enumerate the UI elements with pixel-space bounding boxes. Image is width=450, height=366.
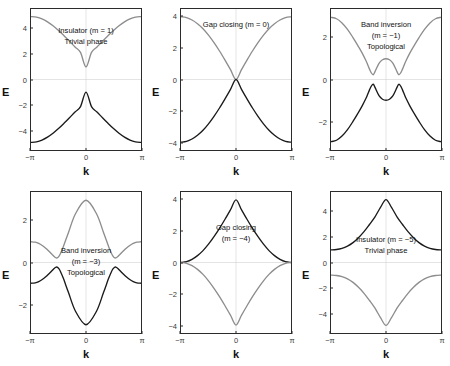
y-tick-label: −2 — [168, 290, 177, 299]
x-tick-mark — [236, 331, 237, 334]
axis-frame — [180, 191, 292, 334]
y-tick-label: 4 — [173, 194, 177, 203]
x-tick-label: π — [439, 336, 444, 345]
plot-area: 420−2−4−π0πGap closing (m = 0) — [180, 8, 292, 151]
y-tick-mark — [30, 262, 33, 263]
y-tick-mark — [30, 53, 33, 54]
y-tick-label: 2 — [173, 226, 177, 235]
x-tick-label: 0 — [234, 153, 238, 162]
axis-frame — [330, 8, 442, 151]
y-tick-label: 0 — [173, 258, 177, 267]
axis-frame — [30, 8, 142, 151]
x-tick-label: π — [439, 153, 444, 162]
plot-area: 20−2−π0πBand inversion(m = −1)Topologica… — [330, 8, 442, 151]
y-tick-label: 2 — [23, 216, 27, 225]
x-tick-label: −π — [175, 153, 185, 162]
x-tick-mark — [386, 148, 387, 151]
x-tick-mark — [30, 148, 31, 151]
plot-area: 420−2−4−π0πInsulator (m = 1)Trivial phas… — [30, 8, 142, 151]
x-axis-label: k — [330, 165, 442, 177]
y-tick-label: 0 — [173, 75, 177, 84]
x-tick-label: 0 — [384, 153, 388, 162]
y-tick-mark — [180, 262, 183, 263]
x-tick-mark — [442, 148, 443, 151]
y-tick-label: 4 — [173, 11, 177, 20]
x-tick-label: −π — [25, 336, 35, 345]
band-panel-4: Ek20−2−π0πBand inversion(m = −3)Topologi… — [0, 183, 150, 366]
x-tick-mark — [180, 148, 181, 151]
y-tick-label: −4 — [168, 322, 177, 331]
y-tick-mark — [30, 304, 33, 305]
y-axis-label: E — [302, 269, 309, 281]
x-axis-label: k — [180, 348, 292, 360]
x-tick-mark — [292, 148, 293, 151]
x-tick-label: π — [289, 153, 294, 162]
x-tick-label: 0 — [84, 336, 88, 345]
y-axis-label: E — [2, 269, 9, 281]
y-axis-label: E — [152, 269, 159, 281]
y-tick-label: 0 — [23, 75, 27, 84]
y-tick-label: −2 — [18, 101, 27, 110]
x-tick-label: 0 — [234, 336, 238, 345]
plot-area: 420−2−4−π0πGap closing(m = −4) — [180, 191, 292, 334]
x-tick-mark — [180, 331, 181, 334]
plot-area: 420−2−4−π0πInsulator (m = −5)Trivial pha… — [330, 191, 442, 334]
axis-frame — [30, 191, 142, 334]
y-tick-mark — [180, 198, 183, 199]
x-tick-mark — [292, 331, 293, 334]
y-tick-mark — [180, 326, 183, 327]
y-tick-mark — [30, 79, 33, 80]
y-tick-mark — [180, 111, 183, 112]
x-tick-label: π — [289, 336, 294, 345]
band-structure-figure: Ek420−2−4−π0πInsulator (m = 1)Trivial ph… — [0, 0, 450, 366]
y-tick-label: −2 — [168, 107, 177, 116]
y-axis-label: E — [152, 86, 159, 98]
x-tick-mark — [30, 331, 31, 334]
x-tick-label: 0 — [84, 153, 88, 162]
y-tick-label: 2 — [23, 49, 27, 58]
plot-area: 20−2−π0πBand inversion(m = −3)Topologica… — [30, 191, 142, 334]
y-tick-label: 2 — [323, 33, 327, 42]
y-tick-label: 0 — [323, 75, 327, 84]
x-tick-mark — [236, 148, 237, 151]
x-axis-label: k — [330, 348, 442, 360]
y-tick-mark — [180, 294, 183, 295]
y-tick-label: 0 — [323, 258, 327, 267]
y-tick-label: 4 — [23, 24, 27, 33]
band-panel-2: Ek420−2−4−π0πGap closing (m = 0) — [150, 0, 300, 183]
x-tick-mark — [330, 331, 331, 334]
y-tick-mark — [330, 79, 333, 80]
y-tick-mark — [330, 236, 333, 237]
x-tick-label: π — [139, 153, 144, 162]
x-tick-label: −π — [175, 336, 185, 345]
y-tick-label: −4 — [18, 126, 27, 135]
y-tick-label: −2 — [18, 300, 27, 309]
y-tick-label: 4 — [323, 207, 327, 216]
y-tick-label: −4 — [318, 309, 327, 318]
axis-frame — [180, 8, 292, 151]
y-tick-label: −2 — [318, 117, 327, 126]
x-tick-mark — [86, 331, 87, 334]
y-tick-mark — [180, 143, 183, 144]
y-tick-mark — [330, 211, 333, 212]
x-tick-label: −π — [325, 336, 335, 345]
x-tick-label: −π — [25, 153, 35, 162]
x-axis-label: k — [30, 348, 142, 360]
x-tick-mark — [330, 148, 331, 151]
y-axis-label: E — [2, 86, 9, 98]
y-tick-label: −2 — [318, 284, 327, 293]
x-tick-mark — [86, 148, 87, 151]
y-tick-mark — [30, 130, 33, 131]
y-tick-label: 0 — [23, 258, 27, 267]
y-tick-mark — [330, 288, 333, 289]
y-tick-mark — [180, 230, 183, 231]
axis-frame — [330, 191, 442, 334]
x-tick-mark — [442, 331, 443, 334]
band-panel-5: Ek420−2−4−π0πGap closing(m = −4) — [150, 183, 300, 366]
y-tick-mark — [330, 121, 333, 122]
x-tick-mark — [386, 331, 387, 334]
band-panel-6: Ek420−2−4−π0πInsulator (m = −5)Trivial p… — [300, 183, 450, 366]
x-tick-mark — [142, 148, 143, 151]
y-tick-mark — [330, 37, 333, 38]
y-tick-mark — [30, 220, 33, 221]
